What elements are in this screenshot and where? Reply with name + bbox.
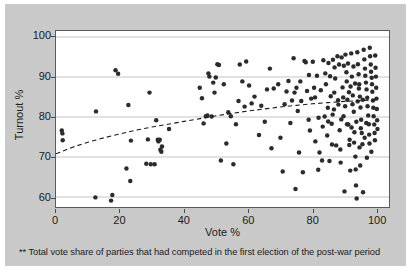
scatter-point bbox=[113, 68, 117, 72]
scatter-point bbox=[363, 66, 367, 70]
scatter-point bbox=[368, 54, 372, 58]
y-axis-label: Turnout % bbox=[13, 70, 25, 160]
x-tick-mark bbox=[119, 209, 120, 213]
scatter-point bbox=[244, 59, 248, 63]
scatter-point bbox=[374, 74, 378, 78]
scatter-point bbox=[340, 85, 344, 89]
scatter-point bbox=[313, 139, 317, 143]
scatter-point bbox=[299, 99, 303, 103]
scatter-point bbox=[200, 96, 204, 100]
scatter-point bbox=[326, 106, 330, 110]
scatter-point bbox=[290, 98, 294, 102]
scatter-point bbox=[343, 52, 347, 56]
scatter-point bbox=[343, 104, 347, 108]
scatter-point bbox=[366, 113, 370, 117]
scatter-point bbox=[327, 159, 331, 163]
figure-container: 60708090100 Turnout % 020406080100 Vote … bbox=[0, 0, 411, 275]
scatter-point bbox=[344, 70, 348, 74]
scatter-point bbox=[351, 64, 355, 68]
scatter-point bbox=[293, 187, 297, 191]
scatter-point bbox=[60, 131, 64, 135]
scatter-point bbox=[341, 95, 345, 99]
x-tick-label: 100 bbox=[368, 215, 386, 226]
scatter-point bbox=[308, 128, 312, 132]
scatter-point bbox=[198, 86, 202, 90]
scatter-point bbox=[338, 147, 342, 151]
footnote-text: ** Total vote share of parties that had … bbox=[19, 247, 404, 257]
x-tick-mark bbox=[248, 209, 249, 213]
scatter-point bbox=[349, 125, 353, 129]
y-tick-label: 100 bbox=[7, 30, 51, 41]
scatter-point bbox=[116, 72, 120, 76]
scatter-point bbox=[291, 56, 295, 60]
x-tick-mark bbox=[377, 209, 378, 213]
scatter-point bbox=[297, 150, 301, 154]
scatter-point bbox=[375, 118, 379, 122]
scatter-point bbox=[313, 95, 317, 99]
scatter-point bbox=[324, 82, 328, 86]
scatter-point bbox=[286, 79, 290, 83]
scatter-point bbox=[373, 66, 377, 70]
x-tick-mark bbox=[313, 209, 314, 213]
scatter-point bbox=[352, 130, 356, 134]
scatter-point bbox=[353, 154, 357, 158]
scatter-point bbox=[332, 65, 336, 69]
scatter-point bbox=[311, 60, 315, 64]
scatter-point bbox=[332, 107, 336, 111]
scatter-point bbox=[373, 53, 377, 57]
scatter-point bbox=[351, 93, 355, 97]
scatter-point bbox=[284, 89, 288, 93]
scatter-point bbox=[342, 189, 346, 193]
scatter-point bbox=[342, 64, 346, 68]
scatter-point bbox=[362, 136, 366, 140]
scatter-point bbox=[307, 73, 311, 77]
scatter-point bbox=[229, 114, 233, 118]
scatter-point bbox=[330, 142, 334, 146]
scatter-point bbox=[219, 158, 223, 162]
scatter-point bbox=[265, 87, 269, 91]
scatter-point bbox=[333, 76, 337, 80]
scatter-point bbox=[224, 141, 228, 145]
scatter-point bbox=[371, 114, 375, 118]
scatter-point bbox=[269, 146, 273, 150]
scatter-point bbox=[128, 179, 132, 183]
scatter-point bbox=[278, 136, 282, 140]
scatter-point bbox=[362, 57, 366, 61]
scatter-point bbox=[222, 82, 226, 86]
scatter-point bbox=[364, 121, 368, 125]
scatter-point bbox=[263, 120, 267, 124]
scatter-point bbox=[370, 90, 374, 94]
scatter-point bbox=[335, 54, 339, 58]
scatter-point bbox=[373, 138, 377, 142]
scatter-point bbox=[365, 156, 369, 160]
scatter-point bbox=[238, 62, 242, 66]
scatter-point bbox=[354, 183, 358, 187]
scatter-point bbox=[326, 61, 330, 65]
scatter-point bbox=[247, 83, 251, 87]
scatter-point bbox=[301, 170, 305, 174]
scatter-point bbox=[370, 82, 374, 86]
scatter-points bbox=[60, 46, 380, 203]
scatter-point bbox=[369, 62, 373, 66]
scatter-point bbox=[242, 104, 246, 108]
x-tick-mark bbox=[55, 209, 56, 213]
scatter-point bbox=[368, 46, 372, 50]
scatter-point bbox=[356, 62, 360, 66]
scatter-point bbox=[339, 55, 343, 59]
scatter-point bbox=[328, 74, 332, 78]
scatter-point bbox=[330, 112, 334, 116]
x-tick-label: 20 bbox=[113, 215, 125, 226]
x-tick-label: 0 bbox=[52, 215, 58, 226]
scatter-point bbox=[359, 118, 363, 122]
scatter-point bbox=[336, 102, 340, 106]
scatter-point bbox=[124, 166, 128, 170]
scatter-point bbox=[372, 122, 376, 126]
scatter-point bbox=[367, 132, 371, 136]
scatter-point bbox=[315, 74, 319, 78]
scatter-point bbox=[323, 71, 327, 75]
scatter-point bbox=[207, 74, 211, 78]
scatter-point bbox=[369, 70, 373, 74]
scatter-point bbox=[282, 102, 286, 106]
scatter-point bbox=[375, 107, 379, 111]
scatter-point bbox=[231, 162, 235, 166]
